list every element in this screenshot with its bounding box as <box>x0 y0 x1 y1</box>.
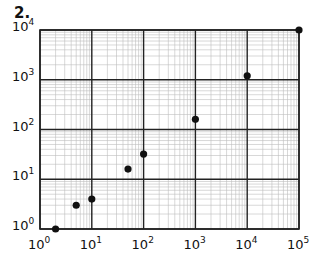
data-point <box>73 202 80 209</box>
data-point <box>192 116 199 123</box>
data-point <box>52 225 59 232</box>
y-tick-label: 103 <box>12 68 34 84</box>
data-point <box>295 26 302 33</box>
data-point <box>244 72 251 79</box>
y-tick-label: 102 <box>12 118 34 134</box>
data-point <box>88 195 95 202</box>
x-tick-label: 102 <box>132 236 154 252</box>
data-point <box>124 165 131 172</box>
x-tick-label: 100 <box>28 236 50 252</box>
x-tick-label: 103 <box>183 236 205 252</box>
x-tick-label: 104 <box>235 236 257 252</box>
log-log-scatter-plot <box>0 0 318 254</box>
y-tick-label: 104 <box>12 18 34 34</box>
x-tick-label: 105 <box>287 236 309 252</box>
x-tick-label: 101 <box>80 236 102 252</box>
y-tick-label: 101 <box>12 167 34 183</box>
y-tick-label: 100 <box>12 217 34 233</box>
data-point <box>140 151 147 158</box>
